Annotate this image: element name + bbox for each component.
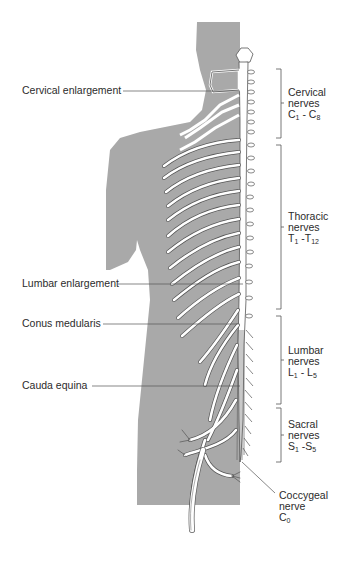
lumbar-range: L1 - L5	[288, 367, 324, 381]
label-thoracic-nerves: Thoracic nerves T1 -T12	[288, 211, 328, 247]
label-sacral-nerves: Sacral nerves S1 -S5	[288, 419, 320, 455]
label-conus-medularis: Conus medularis	[22, 318, 101, 329]
thoracic-range: T1 -T12	[288, 233, 328, 247]
label-cauda-equina: Cauda equina	[22, 380, 87, 391]
label-lumbar-nerves: Lumbar nerves L1 - L5	[288, 345, 324, 381]
label-cervical-enlargement: Cervical enlargement	[22, 85, 121, 96]
label-cervical-nerves: Cervical nerves C1 - C8	[288, 87, 326, 123]
sacral-range: S1 -S5	[288, 441, 320, 455]
right-nerve-roots	[243, 330, 253, 456]
label-lumbar-enlargement: Lumbar enlargement	[22, 278, 119, 289]
label-coccygeal-nerve: Coccygeal nerve C0	[279, 490, 328, 526]
coccygeal-range: C0	[279, 512, 328, 526]
cervical-range: C1 - C8	[288, 109, 326, 123]
region-brackets	[276, 69, 284, 462]
